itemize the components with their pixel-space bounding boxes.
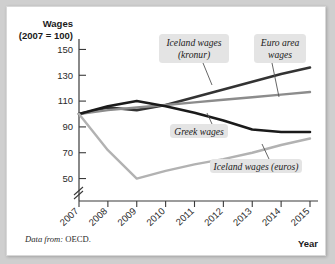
y-axis-title-line2: (2007 = 100) bbox=[19, 30, 73, 41]
x-tick-label: 2015 bbox=[288, 205, 311, 227]
callout-iceland-wages-kronur: Iceland wages(kronur) bbox=[159, 34, 229, 85]
callout-label: Greek wages bbox=[174, 126, 224, 137]
callout-label: Iceland wages (euros) bbox=[213, 161, 299, 173]
y-tick-label: 70 bbox=[62, 147, 73, 158]
x-tick-label: 2011 bbox=[173, 205, 195, 227]
y-axis-title-line1: Wages bbox=[43, 18, 73, 29]
x-tick-label: 2007 bbox=[57, 205, 80, 227]
callout-label: Euro area bbox=[260, 37, 300, 48]
callout-label: (kronur) bbox=[178, 49, 210, 61]
series-line-euro-area-wages bbox=[79, 92, 310, 114]
callout-greek-wages: Greek wages bbox=[170, 113, 228, 138]
x-axis-title: Year bbox=[298, 238, 318, 249]
y-tick-label: 90 bbox=[62, 121, 73, 132]
y-tick-label: 130 bbox=[57, 70, 73, 81]
x-tick-label: 2012 bbox=[202, 205, 225, 227]
callout-euro-area-wages: Euro areawages bbox=[254, 34, 306, 97]
figure-panel: Iceland wages(kronur)Euro areawagesGreek… bbox=[6, 6, 326, 256]
series-line-iceland-wages-kronur bbox=[79, 68, 310, 114]
y-tick-label: 110 bbox=[58, 95, 73, 106]
callout-label: wages bbox=[268, 49, 292, 60]
x-tick-label: 2009 bbox=[115, 205, 138, 227]
x-tick-label: 2010 bbox=[144, 205, 167, 227]
x-tick-label: 2008 bbox=[86, 205, 109, 227]
y-tick-label: 150 bbox=[57, 44, 73, 55]
line-chart: Iceland wages(kronur)Euro areawagesGreek… bbox=[7, 7, 326, 256]
axes bbox=[74, 39, 318, 207]
y-tick-label: 50 bbox=[62, 173, 73, 184]
x-tick-label: 2014 bbox=[260, 205, 283, 227]
callout-label: Iceland wages bbox=[165, 37, 221, 48]
x-tick-label: 2013 bbox=[231, 205, 254, 227]
